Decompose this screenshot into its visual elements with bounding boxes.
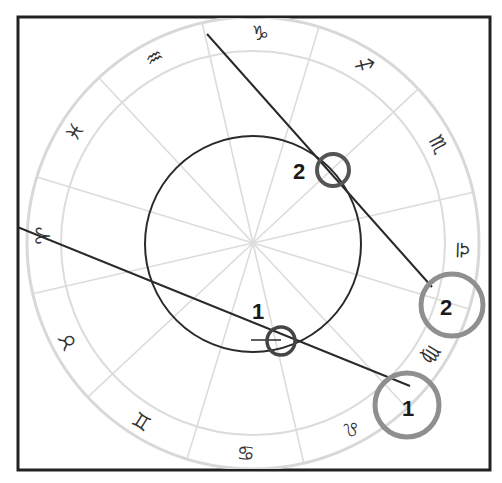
sign-glyph-capricorn: ♑	[251, 21, 270, 46]
zodiac-diagram: ♑♐♏♎♍♌♋♊♉♈♓♒ 2 1 2 1	[0, 0, 502, 483]
small-marker-2-label: 2	[293, 159, 305, 184]
large-marker-1-label: 1	[402, 396, 414, 421]
sign-glyph-libra: ♎	[451, 241, 476, 260]
small-marker-1-label: 1	[252, 299, 264, 324]
sign-glyph-cancer: ♋	[236, 441, 255, 466]
sign-glyph-aries: ♈	[31, 226, 56, 245]
large-marker-2-label: 2	[440, 295, 452, 320]
zodiac-wheel-svg: ♑♐♏♎♍♌♋♊♉♈♓♒ 2 1 2 1	[0, 0, 502, 483]
